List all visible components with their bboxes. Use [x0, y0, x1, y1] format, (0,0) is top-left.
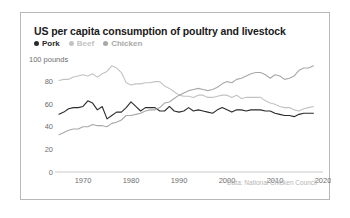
series-line-chicken: [59, 66, 313, 135]
x-tick-label: 1990: [171, 176, 188, 185]
chart-card: US per capita consumption of poultry and…: [20, 12, 330, 200]
source-attribution: Data: National Chicken Council: [227, 179, 317, 186]
plot-area: 100 pounds806040200 19701980199020002010…: [21, 13, 329, 199]
chart-card-inner: US per capita consumption of poultry and…: [21, 13, 329, 199]
y-tick-label: 40: [45, 122, 53, 131]
y-tick-label: 60: [45, 100, 53, 109]
y-tick-label: 80: [45, 77, 53, 86]
screenshot-root: US per capita consumption of poultry and…: [0, 0, 350, 218]
series-line-beef: [59, 66, 313, 111]
y-tick-label: 0: [49, 168, 53, 177]
y-tick-label: 20: [45, 145, 53, 154]
y-axis-ticks: 100 pounds806040200: [29, 55, 68, 177]
series-line-pork: [59, 101, 313, 119]
x-tick-label: 1970: [75, 176, 92, 185]
line-chart-svg: 100 pounds806040200 19701980199020002010…: [21, 13, 331, 201]
y-tick-label: 100 pounds: [29, 55, 68, 64]
data-series-group: [59, 66, 313, 135]
x-tick-label: 1980: [123, 176, 140, 185]
x-tick-label: 2020: [315, 176, 331, 185]
